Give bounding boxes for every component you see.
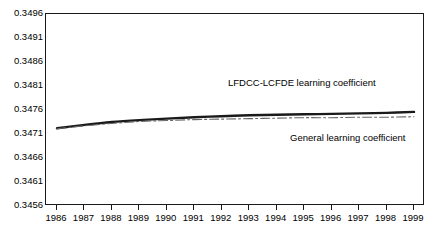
series-line-1: [57, 112, 414, 128]
plot-area: [45, 13, 424, 205]
y-axis: 0.34960.34910.34860.34810.34760.34710.34…: [0, 0, 43, 239]
y-tick-label: 0.3486: [2, 56, 43, 66]
y-tick-label: 0.3466: [2, 152, 43, 162]
series-label-general: General learning coefficient: [290, 132, 405, 143]
y-tick-label: 0.3461: [2, 176, 43, 186]
y-tick-label: 0.3491: [2, 32, 43, 42]
y-tick-label: 0.3476: [2, 104, 43, 114]
y-tick-label: 0.3481: [2, 80, 43, 90]
x-tick-label: 1999: [393, 212, 433, 224]
series-label-lfdcc-lcfde: LFDCC-LCFDE learning coefficient: [228, 77, 376, 88]
y-tick-label: 0.3496: [2, 8, 43, 18]
y-tick-label: 0.3471: [2, 128, 43, 138]
chart-figure: 0.34960.34910.34860.34810.34760.34710.34…: [0, 0, 437, 239]
y-tick-label: 0.3456: [2, 200, 43, 210]
plot-lines: [46, 14, 425, 206]
